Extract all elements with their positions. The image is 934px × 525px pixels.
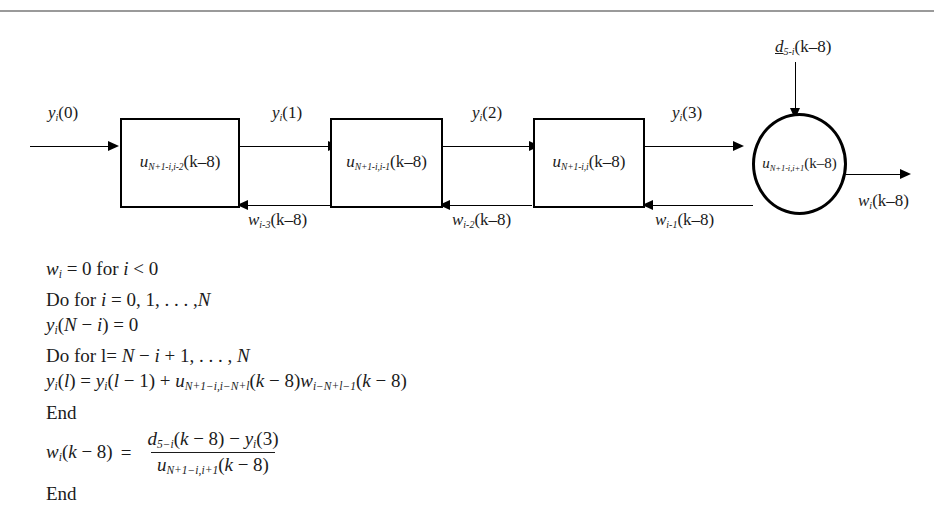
- algo-line-7-fraction-equation: wi(k − 8) = d5−i(k − 8) − yi(3) uN+1−i,i…: [46, 429, 646, 477]
- algo-line-4: Do for l= N − i + 1, . . . , N: [46, 343, 646, 368]
- algo-line-3: yi(N − i) = 0: [46, 312, 646, 343]
- block-2-label: uN+1-i,i-1(k–8): [346, 153, 427, 173]
- fraction-denominator: uN+1−i,i+1(k − 8): [151, 452, 275, 477]
- output-label-w-i: wi(k–8): [858, 192, 909, 211]
- signal-label-y1: yi(1): [272, 104, 302, 123]
- algo-line-8: End: [46, 481, 646, 506]
- disturbance-input-label: d5-i(k–8): [775, 38, 831, 57]
- algo-line-1: wi = 0 for i < 0: [46, 256, 646, 287]
- fraction-lhs: wi(k − 8): [46, 442, 113, 464]
- block-diagram-figure: yi(0) yi(1) yi(2) yi(3) d5-i(k–8) wi-3(k…: [0, 0, 934, 250]
- signal-label-y3: yi(3): [672, 104, 702, 123]
- wire-disturbance: [795, 62, 796, 108]
- wire-feedback-w-i-2: [450, 205, 532, 206]
- signal-label-y2: yi(2): [472, 104, 502, 123]
- node-circle-label: uN+1-i,i+1(k–8): [762, 156, 836, 172]
- algo-line-5: yi(l) = yi(l − 1) + uN+1−i,i−N+l(k − 8)w…: [46, 368, 646, 399]
- fraction-equals: =: [121, 443, 132, 462]
- block-1-label: uN+1-i,i-2(k–8): [140, 153, 221, 173]
- feedback-label-w-i-1: wi-1(k–8): [655, 211, 714, 230]
- algo-line-2: Do for i = 0, 1, . . . ,N: [46, 287, 646, 312]
- block-1[interactable]: uN+1-i,i-2(k–8): [120, 118, 240, 208]
- block-3-label: uN+1-i,i(k–8): [553, 153, 626, 173]
- block-3[interactable]: uN+1-i,i(k–8): [533, 118, 645, 208]
- signal-label-y0: yi(0): [48, 104, 78, 123]
- wire-feedback-w-i-1: [653, 205, 753, 206]
- block-2[interactable]: uN+1-i,i-1(k–8): [330, 118, 443, 208]
- wire-feedback-w-i-3: [248, 205, 330, 206]
- fraction-numerator: d5−i(k − 8) − yi(3): [141, 429, 284, 453]
- wire-y1: [240, 146, 328, 147]
- wire-input-y0: [30, 146, 108, 147]
- wire-y3: [645, 146, 733, 147]
- node-circle[interactable]: uN+1-i,i+1(k–8): [752, 113, 847, 215]
- feedback-label-w-i-3: wi-3(k–8): [248, 211, 307, 230]
- arrowhead-input-y0: [108, 141, 119, 151]
- arrowhead-y3: [733, 141, 744, 151]
- algorithm-block: wi = 0 for i < 0 Do for i = 0, 1, . . . …: [46, 256, 646, 506]
- fraction: d5−i(k − 8) − yi(3) uN+1−i,i+1(k − 8): [141, 429, 284, 477]
- arrowhead-output: [900, 169, 911, 179]
- feedback-label-w-i-2: wi-2(k–8): [452, 211, 511, 230]
- algo-line-6: End: [46, 400, 646, 425]
- wire-output: [846, 174, 900, 175]
- wire-y2: [443, 146, 529, 147]
- page-root: { "page": { "background": "#ffffff", "ru…: [0, 0, 934, 525]
